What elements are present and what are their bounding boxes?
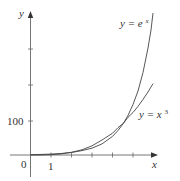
exp-curve-label: y = e x xyxy=(119,17,149,29)
y-axis-arrow-icon xyxy=(28,11,33,18)
curve-exp xyxy=(31,13,154,155)
x-axis-label: x xyxy=(151,158,157,170)
curve-cube xyxy=(31,84,154,155)
origin-label: 0 xyxy=(21,158,27,170)
cube-label-sup: 3 xyxy=(164,108,168,116)
x-tick-label-1: 1 xyxy=(48,160,54,172)
y-axis-label: y xyxy=(18,7,24,19)
x-axis-arrow-icon xyxy=(151,152,158,157)
cube-label-base: y = x xyxy=(138,108,162,120)
exp-label-sup: x xyxy=(144,17,149,25)
cube-curve-label: y = x 3 xyxy=(138,108,168,120)
chart: y x 0 1 100 y = e x y = x 3 xyxy=(0,0,180,181)
y-tick-label-100: 100 xyxy=(7,115,24,127)
axes xyxy=(10,11,158,177)
exp-label-base: y = e xyxy=(119,17,143,29)
